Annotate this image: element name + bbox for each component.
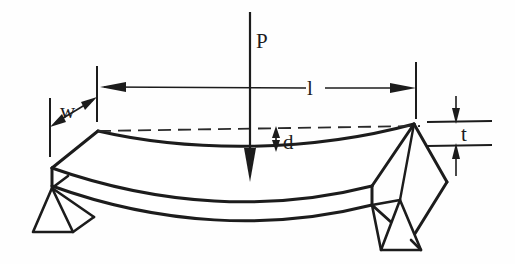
width-label-w: w bbox=[60, 99, 76, 123]
span-label-l: l bbox=[307, 76, 313, 100]
thickness-label-t: t bbox=[461, 122, 467, 146]
load-label-P: P bbox=[256, 29, 268, 53]
bending-diagram-canvas: P l d bbox=[0, 0, 515, 264]
thickness-lower-extension-line bbox=[427, 145, 492, 146]
deflection-dimension-group: d bbox=[272, 126, 294, 154]
span-dimension-line-left bbox=[104, 87, 306, 88]
thickness-upper-extension-line bbox=[427, 121, 492, 122]
deflection-label-d: d bbox=[283, 130, 294, 154]
bending-diagram-figure: P l d bbox=[0, 0, 515, 264]
